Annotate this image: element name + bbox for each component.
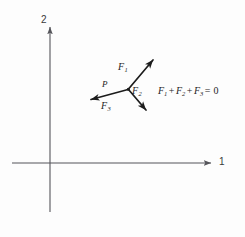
- equation-term-1-subscript: 1: [164, 90, 167, 97]
- vector-label-f1: F1: [118, 62, 127, 72]
- vector-f3: [91, 90, 128, 100]
- vector-label-f3: F3: [101, 101, 110, 111]
- axis-label-horizontal: 1: [219, 157, 225, 167]
- equation-term-3-subscript: 3: [200, 90, 203, 97]
- equation-term-2-subscript: 2: [182, 90, 185, 97]
- vector-label-f1-subscript: 1: [124, 66, 127, 73]
- vector-label-f2: F2: [132, 86, 141, 96]
- equation-operator-2: +: [185, 85, 194, 96]
- force-diagram-figure: 2 1 P F1 F2 F3 F1+F2+F3=0: [0, 0, 245, 237]
- point-p-marker: [127, 88, 130, 91]
- equation-result: 0: [212, 85, 220, 96]
- vector-label-f2-subscript: 2: [138, 90, 141, 97]
- equation-equals-sign: =: [203, 85, 212, 96]
- equation-operator-1: +: [167, 85, 176, 96]
- point-p-label: P: [102, 80, 108, 89]
- equilibrium-equation: F1+F2+F3=0: [158, 86, 220, 96]
- vector-label-f3-subscript: 3: [107, 105, 110, 112]
- figure-canvas: [0, 0, 245, 237]
- axis-label-vertical: 2: [41, 15, 47, 25]
